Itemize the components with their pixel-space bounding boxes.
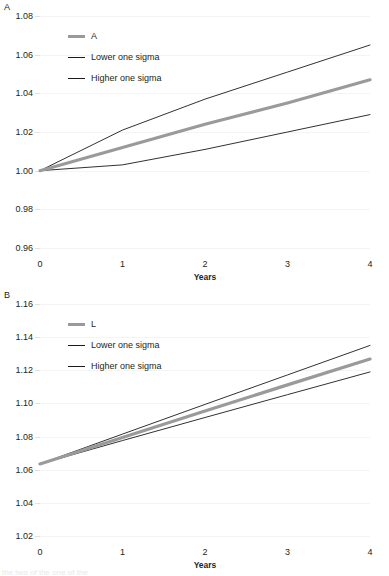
panel-b-legend: LLower one sigmaHigher one sigma — [68, 314, 162, 377]
y-tick-label: 1.12 — [15, 366, 33, 375]
y-tick-label: 1.16 — [15, 300, 33, 309]
x-tick-label: 4 — [367, 260, 372, 269]
legend-item-higher-one-sigma[interactable]: Higher one sigma — [68, 356, 162, 377]
series-line — [40, 372, 370, 464]
legend-swatch-icon — [68, 366, 85, 367]
y-tick-label: 1.08 — [15, 12, 33, 21]
y-tick-label: 1.14 — [15, 333, 33, 342]
panel-a-plot-area: 1.081.061.041.021.000.980.96 ALower one … — [40, 16, 370, 248]
legend-label: Lower one sigma — [91, 341, 160, 350]
bottom-cut-off-text-line: the two of the one of the — [0, 568, 389, 576]
legend-item-series-l[interactable]: L — [68, 314, 162, 335]
y-tick-label: 1.06 — [15, 465, 33, 474]
x-tick-label: 2 — [202, 548, 207, 557]
legend-item-higher-one-sigma[interactable]: Higher one sigma — [68, 68, 162, 89]
y-tick-mark — [35, 248, 40, 249]
legend-swatch-icon — [68, 57, 85, 58]
legend-item-lower-one-sigma[interactable]: Lower one sigma — [68, 335, 162, 356]
panel-a-xaxis-title: Years — [194, 273, 217, 282]
y-tick-label: 1.04 — [15, 89, 33, 98]
y-tick-label: 1.04 — [15, 498, 33, 507]
y-tick-label: 1.02 — [15, 532, 33, 541]
figure-two-panel-line-charts: A 1.081.061.041.021.000.980.96 ALower on… — [0, 0, 389, 576]
legend-label: Higher one sigma — [91, 74, 162, 83]
x-tick-label: 4 — [367, 548, 372, 557]
y-tick-label: 1.06 — [15, 50, 33, 59]
legend-label: Higher one sigma — [91, 362, 162, 371]
panel-a-label: A — [4, 2, 10, 12]
legend-item-lower-one-sigma[interactable]: Lower one sigma — [68, 47, 162, 68]
panel-a-legend: ALower one sigmaHigher one sigma — [68, 26, 162, 89]
bottom-cut-off-text: the two of the one of the — [0, 568, 389, 576]
gridline — [40, 536, 370, 537]
legend-swatch-icon — [68, 78, 85, 79]
y-tick-label: 1.08 — [15, 432, 33, 441]
gridline — [40, 248, 370, 249]
legend-item-series-a[interactable]: A — [68, 26, 162, 47]
legend-swatch-icon — [68, 345, 85, 346]
panel-b: B 1.161.141.121.101.081.061.041.02 LLowe… — [0, 288, 389, 576]
x-tick-label: 3 — [285, 260, 290, 269]
x-tick-label: 0 — [37, 260, 42, 269]
y-tick-label: 1.02 — [15, 128, 33, 137]
legend-label: A — [91, 32, 97, 41]
y-tick-label: 1.00 — [15, 166, 33, 175]
x-tick-label: 2 — [202, 260, 207, 269]
x-tick-label: 1 — [120, 260, 125, 269]
y-tick-label: 0.96 — [15, 244, 33, 253]
legend-label: Lower one sigma — [91, 53, 160, 62]
panel-a: A 1.081.061.041.021.000.980.96 ALower on… — [0, 0, 389, 288]
x-tick-label: 0 — [37, 548, 42, 557]
panel-b-label: B — [4, 290, 10, 300]
x-tick-label: 1 — [120, 548, 125, 557]
y-tick-mark — [35, 536, 40, 537]
legend-swatch-icon — [68, 323, 85, 326]
legend-swatch-icon — [68, 35, 85, 38]
y-tick-label: 1.10 — [15, 399, 33, 408]
y-tick-label: 0.98 — [15, 205, 33, 214]
panel-b-plot-area: 1.161.141.121.101.081.061.041.02 LLower … — [40, 304, 370, 536]
x-tick-label: 3 — [285, 548, 290, 557]
legend-label: L — [91, 320, 96, 329]
